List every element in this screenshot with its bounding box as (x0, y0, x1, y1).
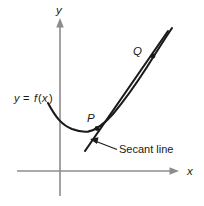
y-axis-label: y (55, 4, 63, 16)
y-axis (56, 18, 64, 196)
secant-callout-leader (90, 137, 117, 149)
point-p-dot (95, 126, 100, 131)
leader-line (95, 141, 117, 150)
point-q-label: Q (133, 45, 142, 57)
secant-line-figure: y x P Q y = f ( x ) Secant line (0, 0, 204, 206)
figure-canvas: y x P Q y = f ( x ) Secant line (0, 0, 204, 206)
point-p-label: P (87, 112, 95, 124)
secant-line (85, 31, 168, 151)
function-label-x: x (41, 92, 48, 104)
x-axis-label: x (186, 165, 194, 177)
function-label-equals: = (23, 92, 29, 104)
function-label: y = f ( x ) (13, 92, 53, 104)
y-axis-arrowhead (56, 18, 64, 28)
function-label-y: y (13, 92, 21, 104)
function-label-paren-close: ) (49, 92, 53, 104)
secant-line-annotation: Secant line (119, 143, 173, 155)
x-axis (17, 167, 179, 175)
x-axis-arrowhead (170, 167, 180, 175)
point-q-dot (151, 54, 156, 59)
